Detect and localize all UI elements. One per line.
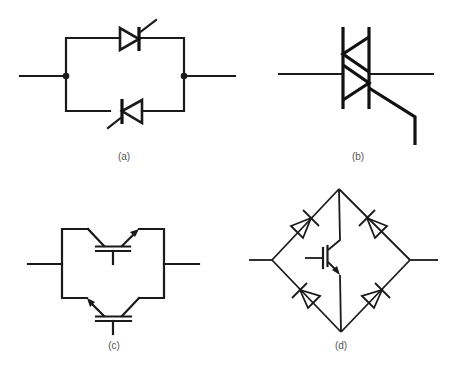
panel-label-d: (d) (335, 340, 347, 351)
switch-diagrams-figure (0, 0, 459, 371)
bridge-edge-bottom-right (341, 260, 410, 332)
thyristor-top-icon (120, 20, 156, 51)
panel-c-antiparallel-igbts (28, 229, 199, 334)
panel-label-a: (a) (118, 151, 130, 162)
right-branch-wire (139, 38, 184, 111)
panel-label-c: (c) (108, 340, 120, 351)
panel-d-diode-bridge-igbt (249, 189, 438, 332)
triac-icon (343, 27, 415, 145)
panel-label-b: (b) (352, 151, 364, 162)
left-branch-wire (62, 229, 88, 298)
left-branch-wire (66, 38, 120, 111)
igbt-bottom-icon (87, 298, 139, 334)
junction-dot-right (181, 73, 188, 80)
panel-b-triac (279, 27, 433, 145)
panel-a-antiparallel-thyristors (20, 20, 235, 128)
right-branch-wire (139, 229, 164, 298)
junction-dot-left (63, 73, 70, 80)
bridge-edge-bottom-left (272, 260, 341, 332)
thyristor-bottom-icon (108, 99, 142, 128)
igbt-center-icon (305, 189, 341, 332)
igbt-top-icon (88, 229, 139, 264)
bridge-edge-top-right (339, 189, 410, 260)
